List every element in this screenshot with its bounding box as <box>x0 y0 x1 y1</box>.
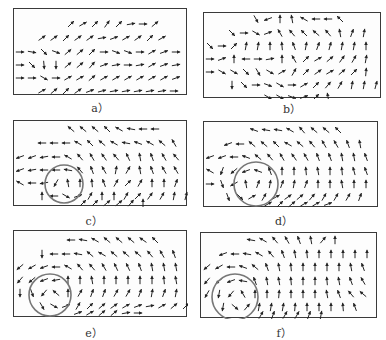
arrow-icon <box>17 264 23 269</box>
arrow-icon <box>54 61 58 69</box>
arrow-icon <box>358 140 362 148</box>
arrow-icon <box>16 76 24 80</box>
arrow-icon <box>146 89 154 93</box>
arrow-icon <box>90 153 94 160</box>
arrow-icon <box>102 263 106 270</box>
arrow-icon <box>99 310 105 315</box>
arrow-icon <box>317 42 320 50</box>
arrow-icon <box>162 166 166 173</box>
arrow-icon <box>313 290 317 298</box>
arrow-icon <box>111 251 117 256</box>
arrow-icon <box>40 250 44 258</box>
arrow-icon <box>285 236 289 243</box>
arrow-icon <box>341 303 345 311</box>
arrow-icon <box>244 304 249 310</box>
panel-c <box>13 120 187 206</box>
arrow-icon <box>150 179 154 187</box>
arrow-icon <box>173 154 178 160</box>
arrow-icon <box>277 290 281 298</box>
arrow-icon <box>255 154 261 159</box>
arrow-icon <box>256 68 260 75</box>
arrow-icon <box>38 141 46 145</box>
arrow-icon <box>28 76 36 80</box>
arrow-icon <box>114 276 118 284</box>
arrow-icon <box>276 83 283 87</box>
arrow-icon <box>112 76 119 80</box>
panel-caption-a: a） <box>80 99 120 115</box>
arrow-icon <box>51 88 57 93</box>
arrow-icon <box>348 291 353 297</box>
arrow-icon <box>264 18 272 21</box>
arrow-icon <box>308 311 311 319</box>
arrow-icon <box>215 265 222 269</box>
arrow-icon <box>205 290 209 297</box>
panel-caption-d: d） <box>264 212 304 228</box>
arrow-icon <box>63 35 69 41</box>
arrow-icon <box>364 55 368 63</box>
arrow-icon <box>297 194 303 199</box>
arrow-icon <box>122 311 130 315</box>
arrow-icon <box>361 277 365 284</box>
arrow-icon <box>62 141 70 145</box>
arrow-icon <box>64 168 72 172</box>
arrow-icon <box>162 276 166 284</box>
arrow-icon <box>227 193 230 201</box>
arrow-icon <box>338 29 342 37</box>
arrow-icon <box>328 167 332 175</box>
arrow-icon <box>349 277 352 285</box>
arrow-icon <box>231 252 239 256</box>
arrow-icon <box>134 141 142 144</box>
arrow-icon <box>146 304 154 308</box>
arrow-icon <box>350 81 354 89</box>
arrow-icon <box>232 304 238 309</box>
arrow-icon <box>40 155 48 159</box>
arrow-icon <box>124 51 132 54</box>
arrow-icon <box>278 29 282 36</box>
arrow-icon <box>217 290 221 298</box>
arrow-icon <box>148 76 155 80</box>
arrow-icon <box>280 42 284 50</box>
arrow-icon <box>100 192 104 200</box>
arrow-icon <box>136 63 144 67</box>
arrow-icon <box>290 15 294 23</box>
arrow-icon <box>229 30 235 36</box>
arrow-icon <box>256 42 260 50</box>
arrow-icon <box>174 289 178 297</box>
arrow-icon <box>112 51 120 54</box>
arrow-icon <box>232 55 236 63</box>
arrow-icon <box>281 303 285 311</box>
arrow-icon <box>139 289 142 297</box>
arrow-icon <box>89 49 95 55</box>
arrow-icon <box>304 153 308 160</box>
arrow-icon <box>174 263 178 271</box>
arrow-icon <box>352 153 356 161</box>
arrow-icon <box>206 169 213 173</box>
arrow-icon <box>40 168 48 172</box>
arrow-icon <box>375 81 378 89</box>
arrow-icon <box>124 192 128 199</box>
arrow-icon <box>301 30 307 36</box>
arrow-icon <box>230 155 238 159</box>
arrow-icon <box>206 70 214 74</box>
arrow-icon <box>301 277 305 285</box>
arrow-icon <box>231 43 237 49</box>
arrow-icon <box>87 140 93 146</box>
arrow-icon <box>116 200 122 205</box>
arrow-icon <box>124 76 131 80</box>
arrow-icon <box>86 311 93 315</box>
arrow-icon <box>160 63 168 66</box>
arrow-icon <box>104 200 110 205</box>
arrow-icon <box>135 193 141 199</box>
arrow-icon <box>16 181 23 185</box>
vector-field <box>204 13 382 99</box>
arrow-icon <box>172 250 175 258</box>
arrow-icon <box>78 289 82 296</box>
arrow-icon <box>151 127 159 131</box>
arrow-icon <box>174 276 178 284</box>
arrow-icon <box>127 22 135 26</box>
arrow-icon <box>115 127 122 131</box>
arrow-icon <box>138 153 142 161</box>
arrow-icon <box>322 193 326 200</box>
arrow-icon <box>110 89 118 93</box>
arrow-icon <box>90 179 94 187</box>
